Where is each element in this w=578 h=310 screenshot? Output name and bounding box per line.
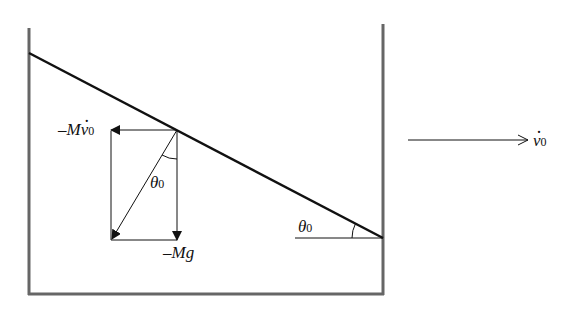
resultant-force-arrow — [112, 130, 177, 239]
incline-angle-label: θ0 — [298, 218, 312, 235]
container-box — [28, 24, 384, 295]
vector-angle-arc — [162, 155, 177, 159]
force-diagram — [111, 130, 177, 240]
incline-angle-arc — [352, 224, 356, 238]
velocity-label: v0 — [533, 132, 547, 149]
gravity-label: –Mg — [163, 244, 194, 261]
incline-line — [29, 53, 383, 238]
inertial-force-label: –Mv0 — [58, 121, 94, 138]
diagram-canvas — [0, 0, 578, 310]
vector-angle-label: θ0 — [150, 174, 164, 191]
